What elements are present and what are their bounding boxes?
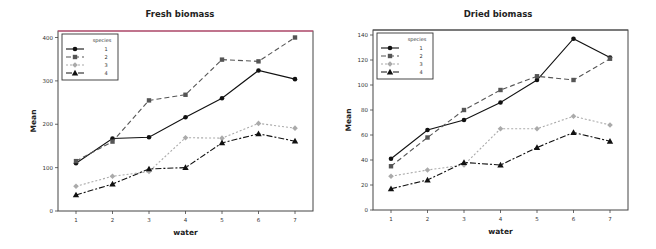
x-tick-label: 5 bbox=[220, 217, 224, 223]
legend-title: species bbox=[93, 37, 112, 44]
x-tick-label: 7 bbox=[293, 217, 297, 223]
square-marker-icon bbox=[571, 78, 575, 82]
x-tick-label: 6 bbox=[257, 217, 261, 223]
square-marker-icon bbox=[147, 98, 151, 102]
circle-marker-icon bbox=[220, 96, 225, 101]
circle-marker-icon bbox=[425, 128, 430, 133]
y-tick-label: 140 bbox=[358, 32, 369, 38]
y-tick-label: 120 bbox=[358, 57, 369, 63]
square-marker-icon bbox=[535, 74, 539, 78]
dried-biomass-chart: Dried biomass0204060801001201401234567wa… bbox=[328, 0, 656, 249]
square-marker-icon bbox=[498, 88, 502, 92]
x-tick-label: 7 bbox=[608, 216, 612, 222]
y-axis-label: Mean bbox=[344, 109, 353, 132]
square-marker-icon bbox=[462, 108, 466, 112]
y-tick-label: 400 bbox=[43, 35, 54, 41]
y-tick-label: 80 bbox=[361, 107, 368, 113]
x-tick-label: 1 bbox=[74, 217, 78, 223]
circle-marker-icon bbox=[256, 68, 261, 73]
y-axis-label: Mean bbox=[29, 110, 38, 133]
square-marker-icon bbox=[293, 35, 297, 39]
square-marker-icon bbox=[74, 159, 78, 163]
y-tick-label: 200 bbox=[43, 121, 54, 127]
y-tick-label: 0 bbox=[50, 208, 54, 214]
x-tick-label: 1 bbox=[389, 216, 393, 222]
legend-entry-label: 4 bbox=[104, 70, 107, 76]
chart-title: Dried biomass bbox=[464, 9, 533, 19]
square-marker-icon bbox=[110, 139, 114, 143]
fresh-biomass-chart: Fresh biomass01002003004001234567waterMe… bbox=[0, 0, 328, 249]
legend-title: species bbox=[408, 36, 427, 43]
circle-marker-icon bbox=[147, 135, 152, 140]
circle-marker-icon bbox=[498, 100, 503, 105]
circle-marker-icon bbox=[462, 118, 467, 123]
legend-entry-label: 3 bbox=[104, 62, 107, 68]
circle-marker-icon bbox=[73, 47, 78, 52]
x-tick-label: 6 bbox=[572, 216, 576, 222]
legend-entry-label: 3 bbox=[419, 61, 422, 67]
x-tick-label: 2 bbox=[111, 217, 115, 223]
square-marker-icon bbox=[256, 59, 260, 63]
square-marker-icon bbox=[388, 54, 392, 58]
legend-entry-label: 2 bbox=[104, 54, 107, 60]
legend-entry-label: 1 bbox=[104, 46, 107, 52]
x-axis-label: water bbox=[173, 228, 198, 237]
y-tick-label: 100 bbox=[358, 82, 369, 88]
x-tick-label: 5 bbox=[535, 216, 539, 222]
x-tick-label: 4 bbox=[499, 216, 503, 222]
circle-marker-icon bbox=[183, 115, 188, 120]
circle-marker-icon bbox=[388, 46, 393, 51]
legend: species1234 bbox=[62, 34, 118, 80]
legend-entry-label: 2 bbox=[419, 53, 422, 59]
y-tick-label: 0 bbox=[365, 207, 369, 213]
square-marker-icon bbox=[220, 57, 224, 61]
x-tick-label: 2 bbox=[426, 216, 430, 222]
square-marker-icon bbox=[608, 57, 612, 61]
legend-entry-label: 4 bbox=[419, 69, 422, 75]
x-tick-label: 3 bbox=[462, 216, 466, 222]
y-tick-label: 40 bbox=[361, 157, 368, 163]
legend: species1234 bbox=[377, 33, 433, 79]
square-marker-icon bbox=[73, 55, 77, 59]
square-marker-icon bbox=[183, 93, 187, 97]
y-tick-label: 60 bbox=[361, 132, 368, 138]
y-tick-label: 100 bbox=[43, 165, 54, 171]
x-tick-label: 4 bbox=[184, 217, 188, 223]
y-tick-label: 300 bbox=[43, 78, 54, 84]
square-marker-icon bbox=[389, 164, 393, 168]
legend-entry-label: 1 bbox=[419, 45, 422, 51]
chart-title: Fresh biomass bbox=[146, 9, 215, 19]
circle-marker-icon bbox=[293, 77, 298, 82]
x-tick-label: 3 bbox=[147, 217, 151, 223]
circle-marker-icon bbox=[389, 156, 394, 161]
x-axis-label: water bbox=[488, 227, 513, 236]
circle-marker-icon bbox=[571, 36, 576, 41]
square-marker-icon bbox=[425, 135, 429, 139]
y-tick-label: 20 bbox=[361, 182, 368, 188]
